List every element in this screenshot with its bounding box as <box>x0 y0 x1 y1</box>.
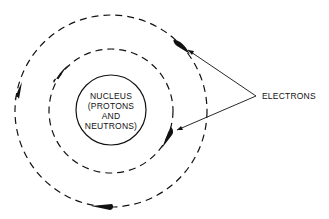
electron-inner-right <box>162 127 173 148</box>
electron-outer-top-right <box>173 40 190 54</box>
nucleus-line-3: AND <box>102 111 121 121</box>
electrons-label: ELECTRONS <box>262 91 316 101</box>
electron-inner-top-left <box>53 65 68 83</box>
nucleus-line-4: NEUTRONS) <box>85 121 137 131</box>
electron-outer-bottom <box>91 204 113 210</box>
atom-diagram: NUCLEUS (PROTONS AND NEUTRONS) ELECTRONS <box>0 0 329 219</box>
nucleus-line-2: (PROTONS <box>88 101 134 111</box>
callout-lines <box>177 50 256 130</box>
nucleus-line-1: NUCLEUS <box>90 91 132 101</box>
